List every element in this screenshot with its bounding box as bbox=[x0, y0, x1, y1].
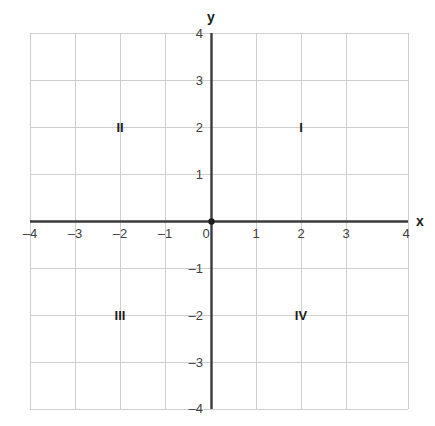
y-tick-label-neg3: –3 bbox=[189, 355, 203, 370]
quadrant-label-i: I bbox=[299, 120, 303, 135]
x-tick-label-neg3: –3 bbox=[68, 226, 82, 241]
x-tick-label-neg1: –1 bbox=[158, 226, 172, 241]
x-tick-label-pos3: 3 bbox=[342, 226, 349, 241]
x-tick-label-pos4: 4 bbox=[402, 226, 409, 241]
y-tick-label-neg2: –2 bbox=[189, 308, 203, 323]
x-axis-label: x bbox=[416, 213, 424, 229]
y-tick-label-neg1: –1 bbox=[189, 261, 203, 276]
x-tick-label-neg4: –4 bbox=[23, 226, 37, 241]
x-tick-label-pos1: 1 bbox=[252, 226, 259, 241]
y-tick-label-pos1: 1 bbox=[196, 167, 203, 182]
quadrant-label-iv: IV bbox=[295, 308, 308, 323]
y-tick-label-pos3: 3 bbox=[196, 73, 203, 88]
quadrant-label-iii: III bbox=[115, 308, 126, 323]
y-tick-label-pos2: 2 bbox=[196, 120, 203, 135]
quadrant-label-ii: II bbox=[116, 120, 123, 135]
y-axis-label: y bbox=[207, 9, 215, 25]
x-tick-label-neg2: –2 bbox=[113, 226, 127, 241]
y-tick-label-neg4: –4 bbox=[189, 401, 203, 416]
x-tick-label-zero: 0 bbox=[202, 226, 209, 241]
origin-point bbox=[208, 218, 214, 224]
y-tick-label-pos4: 4 bbox=[196, 26, 203, 41]
coordinate-plane-svg: –4 –3 –2 –1 0 1 2 3 4 4 3 2 1 –1 –2 –3 –… bbox=[0, 0, 435, 426]
x-tick-label-pos2: 2 bbox=[297, 226, 304, 241]
coordinate-plane: –4 –3 –2 –1 0 1 2 3 4 4 3 2 1 –1 –2 –3 –… bbox=[0, 0, 435, 426]
